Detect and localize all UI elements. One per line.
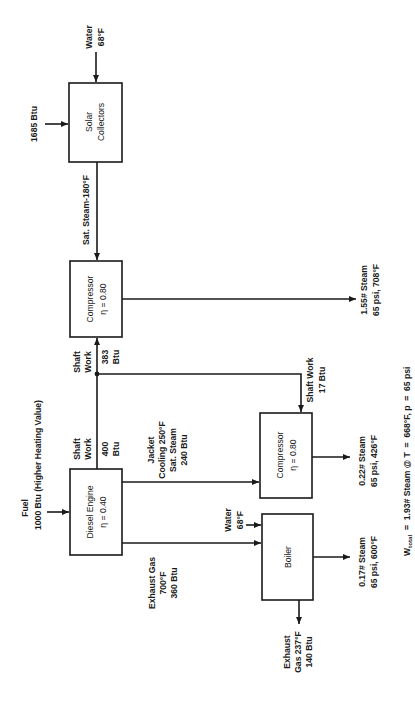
shaft-work-383-label-3: 383 xyxy=(100,350,110,365)
jacket-cooling-label-2: Cooling 250°F xyxy=(157,421,167,478)
exhaust-out-label-2: Gas 237°F xyxy=(293,631,303,673)
shaft-work-400-label-3: 400 xyxy=(100,442,110,457)
shaft-work-400-label-4: Btu xyxy=(111,442,121,456)
steam-out-secondary-label-2: 65 psi, 426°F xyxy=(369,435,379,487)
shaft-work-17-label-1: Shaft Work xyxy=(305,357,315,402)
total-rest: = 1.93# Steam @ T = 668°F, p = 65 psi xyxy=(402,367,412,535)
shaft-work-17-label-2: 17 Btu xyxy=(317,367,327,393)
water-boiler-label-2: 68°F xyxy=(235,511,245,529)
fuel-label-2: 1000 Btu (Higher Heating Value) xyxy=(33,400,43,530)
diesel-engine-label-1: Diesel Engine xyxy=(85,485,95,538)
sat-steam-label: Sat. Steam-180°F xyxy=(81,175,91,245)
jacket-cooling-label-1: Jacket xyxy=(146,436,156,463)
shaft-work-383-label-1: Shaft xyxy=(72,351,82,373)
exhaust-out-label-3: 140 Btu xyxy=(304,636,314,667)
solar-collectors-label-1: Solar xyxy=(84,112,94,132)
exhaust-gas-label-3: 360 Btu xyxy=(169,567,179,598)
water-solar-label-2: 68°F xyxy=(96,28,106,46)
water-solar-label-1: Water xyxy=(84,25,94,49)
compressor-main-box xyxy=(70,261,122,337)
solar-collectors-label-2: Collectors xyxy=(96,103,106,141)
compressor-secondary-box xyxy=(260,413,312,498)
shaft-work-400-label-1: Shaft xyxy=(72,438,82,460)
diesel-engine-label-2: η = 0.40 xyxy=(98,496,108,528)
boiler-label: Boiler xyxy=(283,546,293,568)
jacket-cooling-label-3: Sat. Steam xyxy=(168,428,178,472)
steam-out-main-label-1: 1.55# Steam xyxy=(359,265,369,315)
energy-flow-diagram: Solar Collectors Compressor η = 0.80 Die… xyxy=(0,0,415,708)
fuel-label-1: Fuel xyxy=(20,499,30,517)
steam-out-secondary-label-1: 0.22# Steam xyxy=(357,436,367,486)
compressor-main-label-2: η = 0.80 xyxy=(98,283,108,315)
jacket-cooling-label-4: 240 Btu xyxy=(179,434,189,465)
compressor-secondary-label-2: η = 0.80 xyxy=(288,439,298,471)
steam-out-main-label-2: 65 psi, 708°F xyxy=(371,264,381,316)
exhaust-gas-label-2: 700°F xyxy=(158,571,168,594)
diesel-engine-box xyxy=(70,469,122,555)
total-sub: total xyxy=(406,535,413,548)
compressor-main-label-1: Compressor xyxy=(85,275,95,322)
shaft-work-17-arrow xyxy=(97,374,301,412)
exhaust-gas-label-1: Exhaust Gas xyxy=(147,557,157,609)
solar-input-label: 1685 Btu xyxy=(29,106,39,142)
compressor-secondary-label-1: Compressor xyxy=(275,431,285,478)
shaft-work-383-label-2: Work xyxy=(83,351,93,373)
total-equation: Wtotal = 1.93# Steam @ T = 668°F, p = 65… xyxy=(402,367,413,556)
shaft-work-400-label-2: Work xyxy=(83,438,93,460)
water-boiler-label-1: Water xyxy=(223,508,233,532)
steam-out-boiler-label-1: 0.17# Steam xyxy=(357,537,367,587)
shaft-work-383-label-4: Btu xyxy=(111,350,121,364)
exhaust-out-label-1: Exhaust xyxy=(282,635,292,669)
steam-out-boiler-label-2: 65 psi, 600°F xyxy=(369,536,379,588)
